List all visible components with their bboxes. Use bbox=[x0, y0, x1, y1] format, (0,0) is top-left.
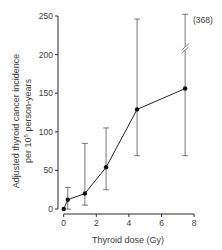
data-point bbox=[62, 207, 66, 211]
x-tick-label: 2 bbox=[94, 218, 99, 228]
data-markers bbox=[62, 86, 188, 211]
y-axis: 050100150200250 bbox=[39, 11, 58, 214]
y-tick-label: 250 bbox=[39, 11, 53, 21]
data-point bbox=[183, 86, 187, 90]
data-point bbox=[83, 191, 87, 195]
x-axis: 02468 bbox=[61, 214, 196, 228]
data-point bbox=[66, 198, 70, 202]
y-tick-label: 0 bbox=[48, 204, 53, 214]
x-tick-label: 8 bbox=[192, 218, 197, 228]
error-bars bbox=[65, 14, 189, 209]
y-tick-label: 150 bbox=[39, 88, 53, 98]
annotation-368: (368) bbox=[193, 15, 213, 25]
y-axis-title-line1: Adjusted thyroid cancer incidence bbox=[11, 54, 21, 189]
chart: 050100150200250 02468 Adjusted thyroid c… bbox=[0, 0, 222, 250]
y-axis-title: Adjusted thyroid cancer incidence per 10… bbox=[11, 54, 33, 189]
series-line bbox=[64, 89, 185, 209]
data-point bbox=[135, 107, 139, 111]
x-tick-label: 4 bbox=[127, 218, 132, 228]
y-axis-title-line2: per 105 person-years bbox=[23, 79, 33, 163]
x-tick-label: 0 bbox=[61, 218, 66, 228]
data-point bbox=[104, 165, 108, 169]
x-tick-label: 6 bbox=[159, 218, 164, 228]
y-tick-label: 200 bbox=[39, 50, 53, 60]
x-axis-title: Thyroid dose (Gy) bbox=[92, 235, 164, 245]
y-tick-label: 100 bbox=[39, 127, 53, 137]
y-tick-label: 50 bbox=[44, 165, 54, 175]
